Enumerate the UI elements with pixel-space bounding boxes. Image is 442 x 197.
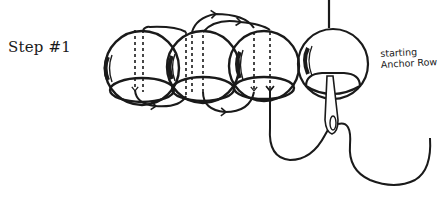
dashed-thread-passes xyxy=(135,30,270,96)
step-number: #1 xyxy=(49,38,72,56)
beading-diagram: Step #1 starting Anchor Row xyxy=(0,0,442,197)
step-label: Step #1 xyxy=(8,38,71,56)
anchor-row-annotation: starting Anchor Row xyxy=(380,45,437,70)
needle xyxy=(325,0,338,134)
step-word: Step xyxy=(8,38,44,56)
diagram-drawing xyxy=(0,0,442,197)
